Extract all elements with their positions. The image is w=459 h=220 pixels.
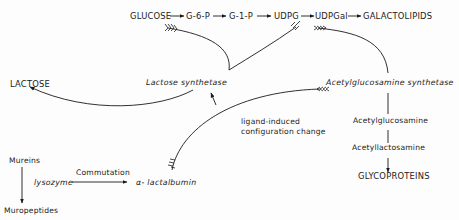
product-acetyllactosamine: Acetyllactosamine <box>352 144 425 152</box>
node-glucose: GLUCOSE <box>130 12 171 20</box>
annotation-configuration-change: configuration change <box>241 128 326 136</box>
node-galactolipids: GALACTOLIPIDS <box>363 12 432 20</box>
curve-lactose-synthetase-to-udpg <box>229 27 296 70</box>
diagram-arrows <box>0 0 459 220</box>
enzyme-acetylglucosamine-synthetase: Acetylglucosamine synthetase <box>326 79 454 87</box>
curve-to-lactose <box>30 87 193 106</box>
pathway-diagram: GLUCOSE G-6-P G-1-P UDPG UDPGal GALACTOL… <box>0 0 459 220</box>
product-lactose: LACTOSE <box>10 80 50 88</box>
arrow-to-lactose-synthetase <box>211 93 216 105</box>
node-udpgal: UDPGal <box>315 12 348 20</box>
node-g6p: G-6-P <box>186 12 210 20</box>
curve-glucose-to-lactose-synthetase <box>168 28 229 70</box>
feather-marks <box>165 21 329 168</box>
product-mureins: Mureins <box>9 157 40 165</box>
product-glycoproteins: GLYCOPROTEINS <box>358 172 430 180</box>
node-udpg: UDPG <box>274 12 299 20</box>
enzyme-lysozyme: lysozyme <box>34 179 73 187</box>
annotation-ligand-induced: ligand-induced <box>241 118 300 126</box>
product-acetylglucosamine: Acetylglucosamine <box>353 117 428 125</box>
node-g1p: G-1-P <box>229 12 253 20</box>
product-muropeptides: Muropeptides <box>4 207 58 215</box>
annotation-commutation: Commutation <box>76 169 130 177</box>
enzyme-alpha-lactalbumin: α- lactalbumin <box>136 179 196 187</box>
curve-udpgal-to-acetylglucosamine-synthetase <box>318 28 388 73</box>
enzyme-lactose-synthetase: Lactose synthetase <box>146 79 227 87</box>
